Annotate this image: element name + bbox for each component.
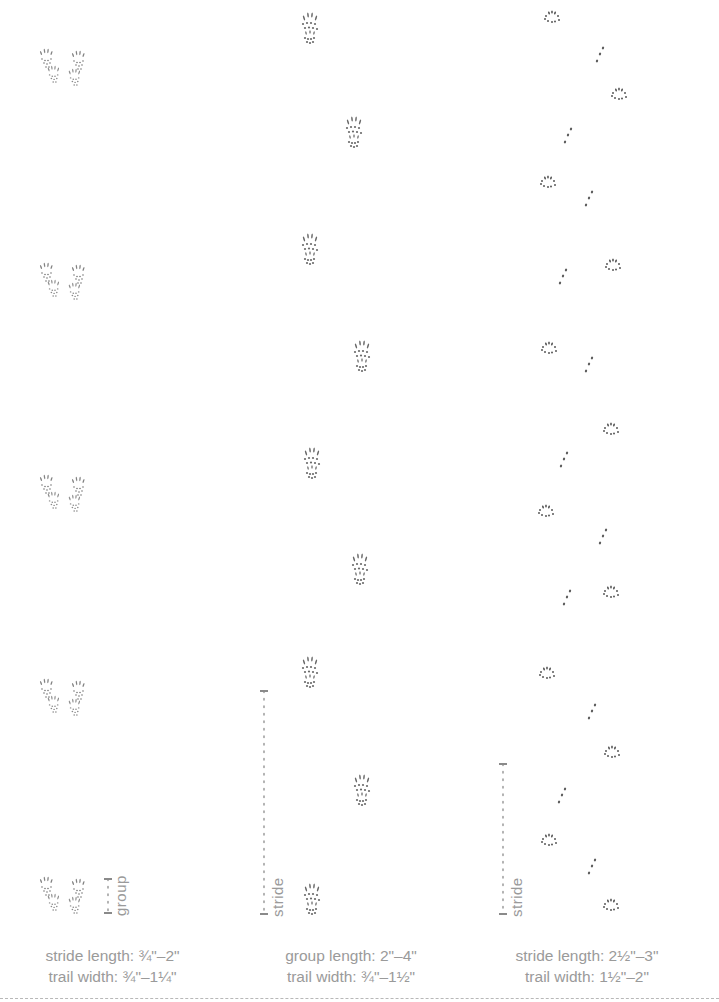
track-print-icon <box>298 12 322 46</box>
toe-print-icon <box>562 127 574 145</box>
caption-bounding-stride: stride length: ¾"–2" <box>0 945 225 966</box>
pad-print-icon <box>604 258 622 272</box>
measure-bar-stride <box>497 763 509 919</box>
track-print-icon <box>350 340 374 374</box>
track-diagram: stride length: ¾"–2" trail width: ¾"–1¼"… <box>0 0 719 1002</box>
track-print-icon <box>67 494 83 514</box>
pad-print-icon <box>538 666 556 680</box>
caption-zigzag-trail-width: trail width: 1½"–2" <box>457 966 717 987</box>
pad-print-icon <box>540 341 558 355</box>
measure-bar-stride <box>258 690 270 919</box>
toe-print-icon <box>586 858 598 876</box>
caption-zigzag: stride length: 2½"–3" trail width: 1½"–2… <box>457 945 717 987</box>
toe-print-icon <box>561 589 573 607</box>
track-print-icon <box>298 656 322 690</box>
measure-label-group: group <box>112 875 129 916</box>
track-print-icon <box>300 883 324 917</box>
pad-print-icon <box>610 87 628 101</box>
measure-label-stride-zigzag: stride <box>508 877 525 917</box>
track-print-icon <box>46 893 62 913</box>
toe-print-icon <box>556 787 568 805</box>
caption-zigzag-stride: stride length: 2½"–3" <box>457 945 717 966</box>
track-print-icon <box>342 116 366 150</box>
track-print-icon <box>67 896 83 916</box>
track-print-icon <box>46 491 62 511</box>
toe-print-icon <box>558 451 570 469</box>
pad-print-icon <box>602 898 620 912</box>
pad-print-icon <box>543 10 561 24</box>
pad-print-icon <box>603 745 621 759</box>
caption-walking: group length: 2"–4" trail width: ¾"–1½" <box>231 945 471 987</box>
track-print-icon <box>298 233 322 267</box>
toe-print-icon <box>597 528 609 546</box>
pad-print-icon <box>539 175 557 189</box>
toe-print-icon <box>583 190 595 208</box>
toe-print-icon <box>594 46 606 64</box>
bottom-divider <box>0 998 719 999</box>
pad-print-icon <box>537 504 555 518</box>
pad-print-icon <box>602 585 620 599</box>
measure-bar-group <box>102 878 114 918</box>
toe-print-icon <box>583 356 595 374</box>
pad-print-icon <box>540 833 558 847</box>
track-print-icon <box>67 282 83 302</box>
track-print-icon <box>67 698 83 718</box>
toe-print-icon <box>557 268 569 286</box>
toe-print-icon <box>586 703 598 721</box>
caption-walking-trail-width: trail width: ¾"–1½" <box>231 966 471 987</box>
track-print-icon <box>46 695 62 715</box>
caption-bounding: stride length: ¾"–2" trail width: ¾"–1¼" <box>0 945 225 987</box>
track-print-icon <box>67 68 83 88</box>
pad-print-icon <box>602 422 620 436</box>
track-print-icon <box>350 774 374 808</box>
caption-walking-group-length: group length: 2"–4" <box>231 945 471 966</box>
track-print-icon <box>300 447 324 481</box>
caption-bounding-trail-width: trail width: ¾"–1¼" <box>0 966 225 987</box>
track-print-icon <box>348 553 372 587</box>
track-print-icon <box>46 65 62 85</box>
measure-label-stride-walking: stride <box>269 877 286 917</box>
track-print-icon <box>46 279 62 299</box>
